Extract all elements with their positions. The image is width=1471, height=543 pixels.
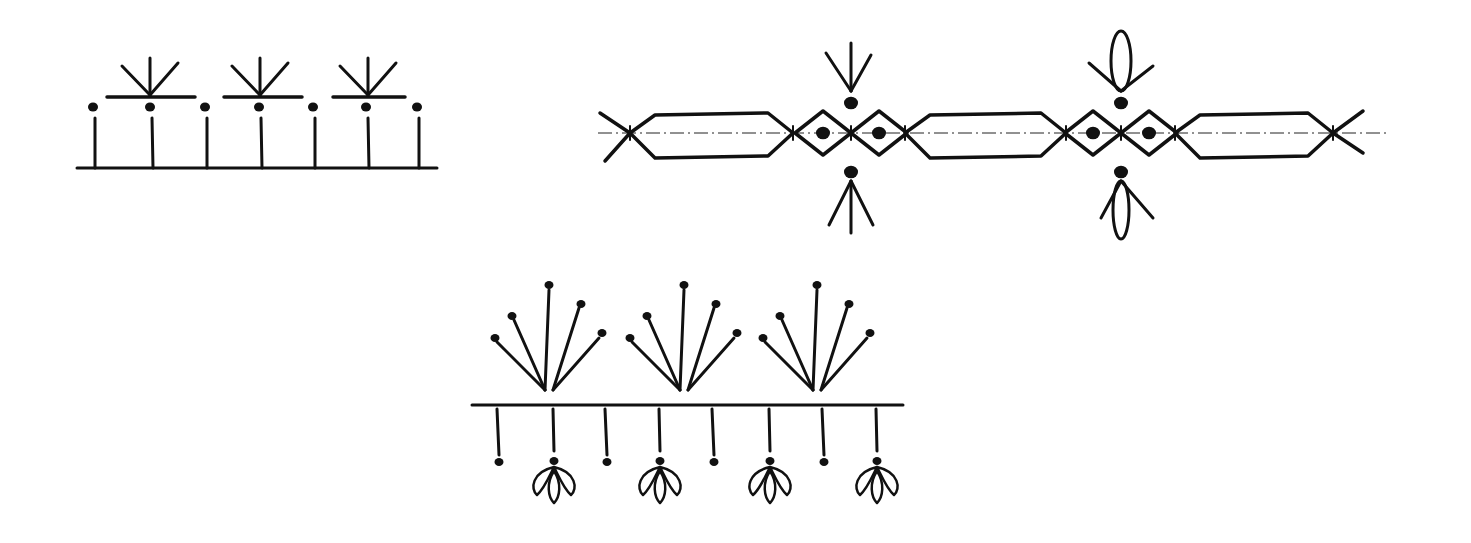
fan-tip-dot xyxy=(545,281,554,289)
fan-ray xyxy=(232,66,260,95)
fan-tip-dot xyxy=(733,329,742,337)
fan-tip-dot xyxy=(491,334,500,342)
bottom-dot xyxy=(844,166,858,179)
flower-petal xyxy=(749,467,770,495)
flower-petal xyxy=(877,467,898,495)
fan-ray xyxy=(260,63,288,95)
loop-petal xyxy=(1113,181,1129,239)
bottom-dot xyxy=(1114,166,1128,179)
end-cross xyxy=(1333,111,1363,133)
flower-petal xyxy=(639,467,660,495)
top-dot xyxy=(1114,97,1128,110)
fan-tip-dot xyxy=(508,312,517,320)
end-cross xyxy=(605,133,630,161)
hexagon-shape xyxy=(905,113,1066,158)
stitch-diagram-canvas xyxy=(0,0,1471,543)
diamond-center-dot xyxy=(872,127,886,140)
fan-tip-dot xyxy=(643,312,652,320)
flower-bud-dot xyxy=(656,457,665,465)
flower-bud-dot xyxy=(550,457,559,465)
fan-tip-dot xyxy=(776,312,785,320)
fan-ray xyxy=(150,63,178,95)
picot-dot xyxy=(88,103,98,112)
fan-tip-dot xyxy=(759,334,768,342)
fan-ray xyxy=(782,320,813,390)
diamond-center-dot xyxy=(1086,127,1100,140)
pendant-dot xyxy=(603,458,612,466)
fan-tip-dot xyxy=(598,329,607,337)
flower-petal xyxy=(549,471,560,503)
flower-petal xyxy=(554,467,575,495)
flower-petal xyxy=(872,471,883,503)
pendant-stem xyxy=(822,409,824,455)
pattern-2-hexagon-diamond-chain xyxy=(598,31,1390,239)
fan-ray xyxy=(340,66,368,95)
fan-tip-dot xyxy=(577,300,586,308)
fan-tip-dot xyxy=(712,300,721,308)
end-cross xyxy=(1333,133,1363,153)
loop-petal xyxy=(1111,31,1131,91)
fan-ray xyxy=(514,320,545,390)
pendant-stem xyxy=(659,409,660,451)
diamond-center-dot xyxy=(816,127,830,140)
fan-ray xyxy=(851,181,873,225)
fan-ray xyxy=(553,308,579,390)
pattern-3-fan-cluster-pendant-border xyxy=(472,281,903,503)
fan-ray xyxy=(1101,181,1121,218)
fan-tip-dot xyxy=(626,334,635,342)
picot-dot xyxy=(308,103,318,112)
pendant-stem xyxy=(605,409,607,455)
fan-tip-dot xyxy=(845,300,854,308)
fan-tip-dot xyxy=(813,281,822,289)
pendant-dot xyxy=(820,458,829,466)
picot-dot xyxy=(145,103,155,112)
pendant-dot xyxy=(710,458,719,466)
fan-ray xyxy=(826,53,851,91)
pendant-stem xyxy=(553,409,554,451)
fan-tip-dot xyxy=(680,281,689,289)
pendant-stem xyxy=(712,409,714,455)
fan-ray xyxy=(632,342,680,390)
flower-bud-dot xyxy=(873,457,882,465)
flower-petal xyxy=(856,467,877,495)
flower-petal xyxy=(655,471,666,503)
pendant-stem xyxy=(769,409,770,451)
picot-dot xyxy=(361,103,371,112)
picot-dot xyxy=(254,103,264,112)
fan-ray xyxy=(368,63,396,95)
fan-ray xyxy=(813,290,817,390)
flower-petal xyxy=(765,471,776,503)
pendant-dot xyxy=(495,458,504,466)
hexagon-shape xyxy=(1175,113,1333,158)
pattern-1-picot-fan-border xyxy=(77,58,437,168)
stem xyxy=(368,118,369,168)
stem xyxy=(152,118,153,168)
flower-bud-dot xyxy=(766,457,775,465)
flower-petal xyxy=(660,467,681,495)
end-cross xyxy=(600,113,630,133)
stem xyxy=(261,118,262,168)
fan-ray xyxy=(821,308,847,390)
fan-ray xyxy=(649,320,680,390)
fan-ray xyxy=(545,290,549,390)
picot-dot xyxy=(412,103,422,112)
fan-ray xyxy=(680,290,684,390)
pendant-stem xyxy=(497,409,499,455)
fan-ray xyxy=(829,181,851,225)
fan-ray xyxy=(765,342,813,390)
fan-ray xyxy=(122,66,150,95)
flower-petal xyxy=(533,467,554,495)
flower-petal xyxy=(770,467,791,495)
top-dot xyxy=(844,97,858,110)
fan-ray xyxy=(688,308,714,390)
hexagon-shape xyxy=(630,113,793,158)
fan-tip-dot xyxy=(866,329,875,337)
diamond-center-dot xyxy=(1142,127,1156,140)
picot-dot xyxy=(200,103,210,112)
pendant-stem xyxy=(876,409,877,451)
fan-ray xyxy=(851,55,871,91)
fan-ray xyxy=(497,342,545,390)
